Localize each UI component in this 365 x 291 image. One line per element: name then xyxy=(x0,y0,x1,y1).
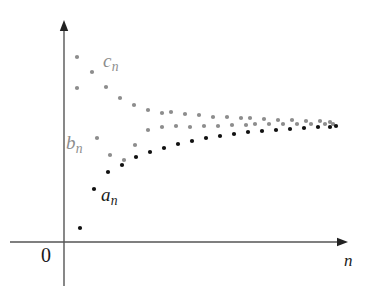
data-point xyxy=(239,116,243,120)
axes-group xyxy=(10,20,348,286)
data-point xyxy=(75,55,79,59)
data-point xyxy=(202,124,206,128)
series-label-c-base: c xyxy=(103,50,111,71)
data-point xyxy=(302,126,306,130)
data-point xyxy=(290,118,294,122)
data-point xyxy=(230,123,234,127)
series-label-a-base: a xyxy=(101,184,111,205)
origin-label: 0 xyxy=(41,245,51,265)
data-point xyxy=(160,125,164,129)
data-point xyxy=(120,163,124,167)
data-point xyxy=(118,96,122,100)
data-point xyxy=(146,108,150,112)
data-point xyxy=(248,116,252,120)
data-point xyxy=(260,129,264,133)
data-point xyxy=(218,134,222,138)
data-point xyxy=(108,153,112,157)
series-label-a-subscript: n xyxy=(111,193,118,208)
data-point xyxy=(309,122,313,126)
x-axis-arrowhead xyxy=(337,238,348,246)
series-a-n xyxy=(78,124,338,230)
data-point xyxy=(316,125,320,129)
data-point xyxy=(183,112,187,116)
data-point xyxy=(75,86,79,90)
plot-area xyxy=(0,0,365,291)
data-point xyxy=(169,110,173,114)
data-point xyxy=(288,127,292,131)
series-b-n xyxy=(75,86,335,162)
data-point xyxy=(162,146,166,150)
data-point xyxy=(104,85,108,89)
data-point xyxy=(197,113,201,117)
data-point xyxy=(328,125,332,129)
data-point xyxy=(95,136,99,140)
data-point xyxy=(106,170,110,174)
y-axis-arrowhead xyxy=(60,20,68,31)
data-point xyxy=(253,122,257,126)
series-label-b: bn xyxy=(66,133,83,156)
data-point xyxy=(232,132,236,136)
data-point xyxy=(281,122,285,126)
data-point xyxy=(276,118,280,122)
data-point xyxy=(160,111,164,115)
data-point xyxy=(132,103,136,107)
series-label-b-subscript: n xyxy=(76,141,83,156)
data-point xyxy=(267,122,271,126)
data-point xyxy=(216,124,220,128)
data-point xyxy=(148,150,152,154)
x-axis-label: n xyxy=(344,252,353,269)
data-point xyxy=(204,136,208,140)
data-point xyxy=(318,119,322,123)
series-label-a: an xyxy=(101,185,118,208)
data-point xyxy=(188,125,192,129)
data-point xyxy=(92,187,96,191)
data-point xyxy=(262,117,266,121)
data-point xyxy=(323,122,327,126)
data-point xyxy=(90,70,94,74)
data-point xyxy=(78,226,82,230)
data-point xyxy=(176,142,180,146)
figure-canvas: 0 n cn bn an xyxy=(0,0,365,291)
data-point xyxy=(134,155,138,159)
data-point xyxy=(211,115,215,119)
data-point xyxy=(274,128,278,132)
data-point xyxy=(246,130,250,134)
data-point xyxy=(190,139,194,143)
series-label-c: cn xyxy=(103,51,119,74)
data-point xyxy=(244,123,248,127)
data-point xyxy=(133,143,137,147)
data-point xyxy=(122,158,126,162)
data-point xyxy=(174,124,178,128)
series-label-c-subscript: n xyxy=(112,59,119,74)
data-point xyxy=(295,122,299,126)
data-point xyxy=(334,124,338,128)
series-label-b-base: b xyxy=(66,132,76,153)
data-point xyxy=(146,128,150,132)
data-point xyxy=(304,119,308,123)
data-point xyxy=(225,115,229,119)
